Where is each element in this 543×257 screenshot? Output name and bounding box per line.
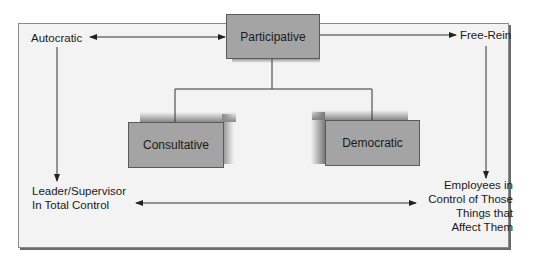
participative-label: Participative bbox=[240, 30, 305, 44]
participative-box: Participative bbox=[226, 14, 320, 59]
democratic-box: Democratic bbox=[325, 120, 420, 166]
leader-control-label: Leader/Supervisor In Total Control bbox=[32, 184, 126, 212]
consultative-box: Consultative bbox=[128, 122, 224, 168]
leader-line-2: In Total Control bbox=[32, 198, 126, 212]
employees-line-2: Control of Those bbox=[428, 192, 513, 206]
consultative-label: Consultative bbox=[143, 138, 209, 152]
autocratic-label: Autocratic bbox=[31, 31, 82, 45]
employees-control-label: Employees in Control of Those Things tha… bbox=[428, 178, 513, 234]
democratic-label: Democratic bbox=[342, 136, 403, 150]
employees-line-1: Employees in bbox=[428, 178, 513, 192]
employees-line-4: Affect Them bbox=[428, 220, 513, 234]
free-rein-label: Free-Rein bbox=[460, 28, 511, 42]
employees-line-3: Things that bbox=[428, 206, 513, 220]
leader-line-1: Leader/Supervisor bbox=[32, 184, 126, 198]
